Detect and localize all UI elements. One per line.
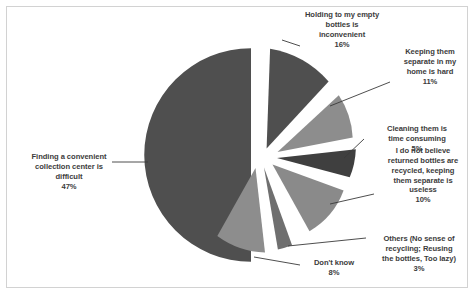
leader-line-keeping: [330, 82, 390, 106]
label-line: difficult: [6, 172, 132, 182]
label-line: Don't know: [296, 258, 372, 268]
label-line: Keeping them: [388, 47, 472, 57]
label-line: them separate is: [372, 176, 474, 186]
label-line: recycling; Reusing: [364, 244, 474, 254]
label-line: bottles is: [286, 20, 398, 30]
label-line: Finding a convenient: [6, 152, 132, 162]
label-percent: 16%: [286, 40, 398, 50]
label-line: collection center is: [6, 162, 132, 172]
label-line: home is hard: [388, 67, 472, 77]
label-line: the bottles, Too lazy): [364, 254, 474, 264]
pie-label-dont-know: Don't know 8%: [296, 258, 372, 278]
label-percent: 10%: [372, 195, 474, 205]
leader-line-others: [288, 238, 366, 246]
pie-label-others: Others (No sense of recycling; Reusing t…: [364, 234, 474, 273]
pie-label-keeping-separate-hard: Keeping them separate in my home is hard…: [388, 47, 472, 86]
label-percent: 8%: [296, 268, 372, 278]
leader-line-dont-know: [254, 257, 300, 265]
label-percent: 11%: [388, 77, 472, 87]
label-percent: 3%: [364, 264, 474, 274]
label-line: useless: [372, 185, 474, 195]
label-line: I do not believe: [372, 146, 474, 156]
label-line: inconvenient: [286, 30, 398, 40]
label-line: Cleaning them is: [362, 124, 472, 134]
label-line: time consuming: [362, 134, 472, 144]
label-line: Others (No sense of: [364, 234, 474, 244]
pie-label-finding-collection-center: Finding a convenient collection center i…: [6, 152, 132, 191]
label-line: returned bottles are: [372, 156, 474, 166]
pie-label-holding-bottles-inconvenient: Holding to my empty bottles is inconveni…: [286, 10, 398, 49]
label-line: recycled, keeping: [372, 166, 474, 176]
label-percent: 47%: [6, 182, 132, 192]
label-line: Holding to my empty: [286, 10, 398, 20]
label-line: separate in my: [388, 57, 472, 67]
pie-label-not-recycled-useless: I do not believe returned bottles are re…: [372, 146, 474, 205]
chart-screenshot: Holding to my empty bottles is inconveni…: [0, 0, 476, 296]
pie-chart: Holding to my empty bottles is inconveni…: [0, 0, 476, 296]
